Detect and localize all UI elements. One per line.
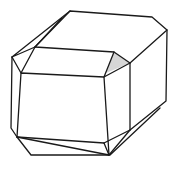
left-edge (11, 57, 17, 137)
left-corner-facet (12, 47, 35, 73)
top-left-bevel-line (35, 18, 62, 47)
right-bevel-line (110, 108, 160, 155)
crystal-drawing (0, 0, 177, 173)
crystal-figure (0, 0, 177, 173)
top-face (35, 11, 167, 63)
